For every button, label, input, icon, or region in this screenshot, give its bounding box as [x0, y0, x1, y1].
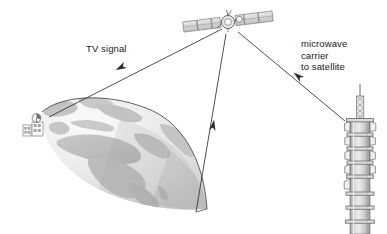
- link-uplink-center: [196, 34, 226, 212]
- satellite-tv-diagram: TV signal microwave carrier to satellite: [0, 0, 387, 234]
- label-microwave-line1: microwave: [301, 38, 347, 50]
- ground-station: [23, 114, 43, 136]
- tower-dish-array-left: [344, 122, 350, 190]
- label-microwave-line2: carrier: [301, 50, 347, 62]
- diagram-canvas: [0, 0, 387, 234]
- label-microwave-line3: to satellite: [301, 61, 347, 73]
- label-tv-signal: TV signal: [86, 43, 127, 55]
- link-tv-signal: [49, 29, 222, 117]
- ground-station-dish-icon: [32, 114, 41, 123]
- microwave-tower: [344, 84, 376, 234]
- tower-lattice-top: [356, 96, 363, 119]
- label-microwave-carrier: microwave carrier to satellite: [301, 38, 347, 73]
- earth-globe: [42, 97, 207, 210]
- link-tv-signal-arrowhead: [114, 62, 127, 73]
- satellite-icon: [183, 10, 274, 32]
